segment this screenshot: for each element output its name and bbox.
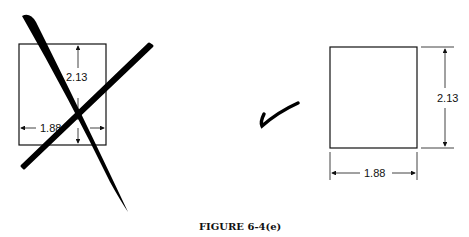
correct-height-label: 2.13	[437, 92, 458, 104]
wrong-dimensioning-example: 2.13 1.88	[19, 15, 152, 212]
cross-out-stroke-2	[22, 44, 152, 168]
correct-width-label: 1.88	[364, 167, 385, 179]
checkmark-icon	[261, 103, 298, 126]
correct-rectangle	[330, 47, 417, 148]
figure-canvas: 2.13 1.88 2.13 1.88 FIGURE 6-4(e)	[0, 0, 469, 237]
wrong-height-label: 2.13	[66, 71, 87, 83]
figure-caption: FIGURE 6-4(e)	[199, 221, 281, 232]
correct-dimensioning-example: 2.13 1.88	[330, 47, 458, 180]
